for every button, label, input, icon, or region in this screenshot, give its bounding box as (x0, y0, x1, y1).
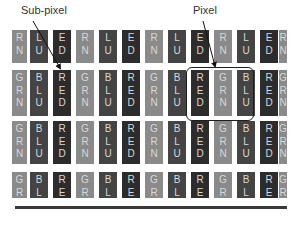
subpixel-blu: BLU (30, 70, 48, 116)
subpixel-grn: GRN (76, 121, 94, 164)
subpixel-letter: E (127, 187, 134, 199)
subpixel-letter: L (35, 187, 42, 199)
subpixel-blu: BLU (99, 70, 117, 116)
subpixel-letter: L (104, 85, 111, 98)
subpixel-letter: B (35, 72, 42, 85)
subpixel-letter: N (81, 45, 89, 58)
subpixel-blu: BLU (237, 30, 255, 63)
subpixel-letter: D (127, 97, 134, 110)
subpixel-grn: GRN (214, 172, 232, 198)
subpixel-red: RED (122, 121, 140, 164)
subpixel-letter: E (127, 136, 134, 149)
subpixel-letter: R (219, 136, 227, 149)
subpixel-letter: E (265, 187, 272, 199)
subpixel-grn: GRN (145, 121, 163, 164)
subpixel-letter: E (265, 32, 272, 45)
subpixel-letter: U (35, 97, 42, 110)
subpixel-letter: N (150, 45, 158, 58)
subpixel-red: RED (260, 70, 278, 116)
subpixel-letter: U (173, 45, 180, 58)
subpixel-letter: G (16, 174, 24, 187)
subpixel-letter: G (150, 72, 158, 85)
subpixel-letter: G (279, 72, 287, 85)
subpixel-grn: GRN (12, 121, 27, 164)
subpixel-grn: GRN (279, 121, 287, 164)
subpixel-letter: R (58, 72, 65, 85)
subpixel-letter: G (81, 174, 89, 187)
subpixel-letter: D (127, 45, 134, 58)
subpixel-letter: G (279, 123, 287, 136)
subpixel-letter: G (81, 123, 89, 136)
subpixel-letter: D (265, 45, 272, 58)
subpixel-letter: E (58, 32, 65, 45)
subpixel-blu: BLU (168, 172, 186, 198)
subpixel-letter: E (196, 32, 203, 45)
subpixel-grn: GRN (279, 172, 287, 198)
subpixel-letter: U (173, 148, 180, 161)
subpixel-letter: R (16, 32, 24, 45)
subpixel-letter: B (104, 72, 111, 85)
subpixel-letter: G (150, 174, 158, 187)
subpixel-blu: BLU (168, 121, 186, 164)
subpixel-grn: GRN (145, 30, 163, 63)
subpixel-letter: B (173, 123, 180, 136)
subpixel-letter: G (16, 123, 24, 136)
subpixel-grn: GRN (145, 172, 163, 198)
subpixel-red: RED (53, 70, 71, 116)
subpixel-letter: G (16, 72, 24, 85)
subpixel-letter: D (265, 97, 272, 110)
subpixel-grn: GRN (12, 70, 27, 116)
subpixel-letter: U (104, 45, 111, 58)
subpixel-grn: GRN (145, 70, 163, 116)
subpixel-letter: R (219, 32, 227, 45)
subpixel-red: RED (122, 70, 140, 116)
subpixel-letter: N (219, 45, 227, 58)
subpixel-letter: B (242, 174, 249, 187)
subpixel-red: RED (191, 121, 209, 164)
subpixel-letter: L (242, 187, 249, 199)
subpixel-letter: N (16, 148, 24, 161)
subpixel-letter: U (173, 97, 180, 110)
subpixel-letter: E (58, 85, 65, 98)
subpixel-letter: R (81, 32, 89, 45)
subpixel-letter: R (16, 136, 24, 149)
subpixel-letter: L (35, 32, 42, 45)
subpixel-letter: B (35, 123, 42, 136)
subpixel-red: RED (53, 121, 71, 164)
subpixel-grn: GRN (76, 30, 94, 63)
subpixel-letter: L (104, 187, 111, 199)
subpixel-letter: L (35, 136, 42, 149)
subpixel-blu: BLU (168, 70, 186, 116)
subpixel-letter: D (196, 148, 203, 161)
subpixel-letter: U (242, 45, 249, 58)
subpixel-letter: R (150, 187, 158, 199)
subpixel-letter: R (279, 32, 287, 45)
subpixel-red: RED (260, 121, 278, 164)
subpixel-letter: R (196, 123, 203, 136)
subpixel-letter: D (58, 148, 65, 161)
subpixel-letter: E (196, 187, 203, 199)
subpixel-letter: D (265, 148, 272, 161)
subpixel-red: RED (260, 172, 278, 198)
subpixel-letter: R (16, 187, 24, 199)
subpixel-grn: GRN (12, 30, 27, 63)
subpixel-blu: BLU (237, 121, 255, 164)
pixel-highlight-box (186, 67, 254, 121)
subpixel-letter: E (265, 136, 272, 149)
subpixel-letter: R (265, 123, 272, 136)
subpixel-letter: U (35, 45, 42, 58)
subpixel-grn: GRN (12, 172, 27, 198)
subpixel-letter: L (104, 136, 111, 149)
subpixel-red: RED (53, 172, 71, 198)
subpixel-letter: D (127, 148, 134, 161)
subpixel-letter: R (127, 174, 134, 187)
subpixel-letter: R (58, 174, 65, 187)
subpixel-letter: R (81, 187, 89, 199)
subpixel-letter: R (81, 136, 89, 149)
subpixel-letter: B (104, 174, 111, 187)
subpixel-red: RED (53, 30, 71, 63)
subpixel-red: RED (260, 30, 278, 63)
subpixel-letter: G (219, 174, 227, 187)
subpixel-letter: R (265, 174, 272, 187)
subpixel-letter: N (219, 148, 227, 161)
